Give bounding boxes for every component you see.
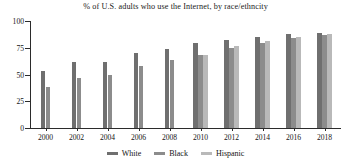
bar bbox=[77, 78, 82, 128]
bar bbox=[72, 62, 77, 128]
bar bbox=[296, 37, 301, 128]
legend-swatch-icon bbox=[201, 152, 212, 155]
legend-item: Hispanic bbox=[201, 149, 244, 158]
x-axis-tick-label: 2018 bbox=[317, 133, 332, 142]
x-axis-tick-label: 2016 bbox=[286, 133, 301, 142]
bar bbox=[291, 38, 296, 128]
legend-item: White bbox=[107, 149, 142, 158]
y-axis-tick-label: 0 bbox=[0, 124, 24, 133]
x-axis-tick bbox=[170, 128, 171, 131]
x-axis-tick-label: 2012 bbox=[224, 133, 239, 142]
bar bbox=[234, 46, 239, 128]
bar bbox=[224, 40, 229, 128]
chart-title: % of U.S. adults who use the Internet, b… bbox=[0, 2, 351, 11]
legend-label: White bbox=[122, 149, 142, 158]
chart-legend: WhiteBlackHispanic bbox=[0, 149, 351, 158]
x-axis-tick-label: 2010 bbox=[193, 133, 208, 142]
bar bbox=[203, 55, 208, 128]
chart-container: % of U.S. adults who use the Internet, b… bbox=[0, 0, 351, 166]
bar bbox=[103, 62, 108, 128]
bar bbox=[322, 35, 327, 128]
bar bbox=[260, 43, 265, 128]
bar bbox=[134, 53, 139, 128]
bar bbox=[317, 33, 322, 128]
bar bbox=[265, 41, 270, 128]
x-axis-tick-label: 2014 bbox=[255, 133, 270, 142]
legend-swatch-icon bbox=[107, 152, 118, 155]
x-axis-tick-label: 2000 bbox=[38, 133, 53, 142]
bar bbox=[41, 71, 46, 128]
x-axis-tick bbox=[46, 128, 47, 131]
bar bbox=[165, 49, 170, 128]
legend-swatch-icon bbox=[154, 152, 165, 155]
x-axis-tick bbox=[139, 128, 140, 131]
bar bbox=[198, 55, 203, 128]
x-axis-tick-label: 2006 bbox=[131, 133, 146, 142]
legend-label: Black bbox=[169, 149, 188, 158]
bar bbox=[229, 48, 234, 128]
x-axis-tick bbox=[201, 128, 202, 131]
y-axis-tick-label: 50 bbox=[0, 70, 24, 79]
x-axis-tick-label: 2008 bbox=[162, 133, 177, 142]
bar bbox=[286, 34, 291, 128]
y-axis-labels: 0255075100 bbox=[0, 0, 24, 166]
legend-label: Hispanic bbox=[216, 149, 244, 158]
y-axis-tick-label: 75 bbox=[0, 43, 24, 52]
plot-area bbox=[30, 21, 340, 128]
legend-item: Black bbox=[154, 149, 188, 158]
x-axis-tick bbox=[77, 128, 78, 131]
bar bbox=[327, 34, 332, 128]
x-axis-tick-label: 2002 bbox=[69, 133, 84, 142]
y-axis-tick-label: 25 bbox=[0, 97, 24, 106]
bar bbox=[170, 60, 175, 128]
bar bbox=[193, 43, 198, 128]
bar bbox=[139, 66, 144, 128]
bar bbox=[108, 75, 113, 129]
y-axis-tick-label: 100 bbox=[0, 17, 24, 26]
x-axis-tick bbox=[294, 128, 295, 131]
x-axis-tick bbox=[108, 128, 109, 131]
bar bbox=[255, 37, 260, 128]
x-axis-tick bbox=[325, 128, 326, 131]
x-axis-tick bbox=[263, 128, 264, 131]
bar bbox=[46, 87, 51, 128]
x-axis-tick-label: 2004 bbox=[100, 133, 115, 142]
x-axis-tick bbox=[232, 128, 233, 131]
